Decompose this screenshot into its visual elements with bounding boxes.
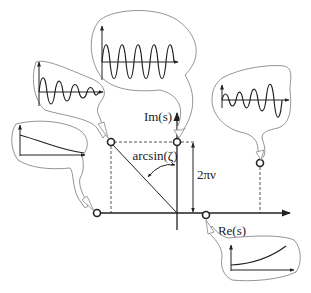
pole-real-positive [203, 212, 210, 219]
bubble-outline [212, 66, 291, 159]
angle-arc [148, 165, 175, 178]
pole-real-negative [94, 210, 101, 217]
poles [94, 139, 264, 219]
bubble-growing-oscillation [212, 66, 291, 161]
bubble-outline [12, 121, 88, 208]
pole-imaginary-axis [174, 139, 181, 146]
bubble-exponential-decay [12, 121, 94, 211]
imaginary-axis-label: Im(s) [144, 109, 172, 124]
angle-label: arcsin(ζ) [132, 148, 177, 163]
pole-upper-right [257, 160, 264, 167]
bubble-pointer [256, 150, 264, 160]
s-plane-diagram: Im(s) Re(s) arcsin(ζ) 2πν [0, 0, 311, 293]
frequency-label: 2πν [197, 167, 216, 182]
pole-upper-left [108, 139, 115, 146]
